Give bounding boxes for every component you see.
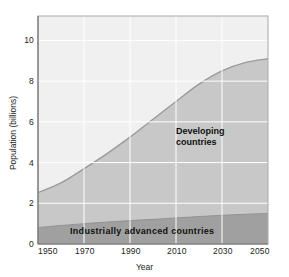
x-tick-label: 1950 bbox=[38, 246, 58, 256]
population-area-chart: 0246810 195019701990201020302050 Populat… bbox=[0, 0, 289, 277]
developing-countries-label-line1: Developing bbox=[176, 126, 225, 137]
x-tick-label: 2010 bbox=[167, 246, 187, 256]
x-tick-label: 2030 bbox=[213, 246, 233, 256]
y-tick-label: 2 bbox=[10, 198, 34, 208]
x-tick-label: 1970 bbox=[75, 246, 95, 256]
x-axis-title: Year bbox=[0, 262, 289, 272]
developing-countries-label-line2: countries bbox=[176, 137, 225, 148]
x-tick-label: 2050 bbox=[250, 246, 270, 256]
y-axis-title: Population (billions) bbox=[8, 73, 18, 193]
advanced-countries-label: Industrially advanced countries bbox=[70, 226, 214, 237]
y-tick-label: 0 bbox=[10, 239, 34, 249]
x-tick-label: 1990 bbox=[121, 246, 141, 256]
y-tick-label: 10 bbox=[10, 35, 34, 45]
developing-countries-label: Developing countries bbox=[176, 126, 225, 148]
